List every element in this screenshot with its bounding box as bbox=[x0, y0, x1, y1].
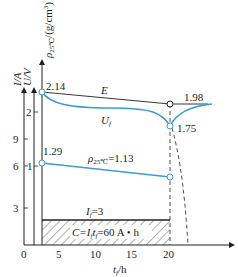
x-tick-label-0: 0 bbox=[21, 248, 27, 260]
e-start-value: 2.14 bbox=[46, 80, 66, 92]
rho-end-marker bbox=[167, 174, 173, 180]
x-tick-label-15: 15 bbox=[126, 248, 138, 260]
start-point-marker bbox=[39, 89, 45, 95]
uf-label: Uf bbox=[101, 114, 112, 128]
x-axis-label: tf/h bbox=[113, 263, 127, 277]
x-tick-label-5: 5 bbox=[56, 248, 62, 260]
i-tick-label-6: 6 bbox=[13, 160, 19, 172]
u-axis-label: U/V bbox=[21, 67, 33, 86]
rho-axis-label: ρ25℃/(g/cm3) bbox=[42, 2, 56, 59]
i-tick-label-9: 9 bbox=[13, 133, 19, 145]
cutoff-dashed-curve bbox=[172, 128, 188, 245]
uf-end-value: 1.75 bbox=[177, 122, 197, 134]
capacity-label: C=Iftf=60 A • h bbox=[72, 226, 139, 240]
battery-discharge-chart: 9 6 3 2 1 0 5 10 15 20 tf/h I/A U/V ρ25℃… bbox=[0, 0, 238, 277]
if-label: If=3 bbox=[85, 205, 104, 219]
e-label: E bbox=[100, 84, 108, 96]
uf-end-marker bbox=[167, 123, 173, 129]
rho-label: ρ25℃=1.13 bbox=[87, 152, 134, 166]
u-tick-label-1: 1 bbox=[27, 160, 33, 172]
x-tick-label-10: 10 bbox=[90, 248, 102, 260]
e-end-value: 1.98 bbox=[184, 91, 204, 103]
rho-start-marker bbox=[39, 160, 45, 166]
rho-start-value: 1.29 bbox=[43, 145, 63, 157]
x-tick-label-20: 20 bbox=[163, 248, 175, 260]
u-tick-label-2: 2 bbox=[26, 106, 32, 118]
i-tick-label-3: 3 bbox=[13, 202, 19, 214]
e-end-marker bbox=[167, 101, 173, 107]
